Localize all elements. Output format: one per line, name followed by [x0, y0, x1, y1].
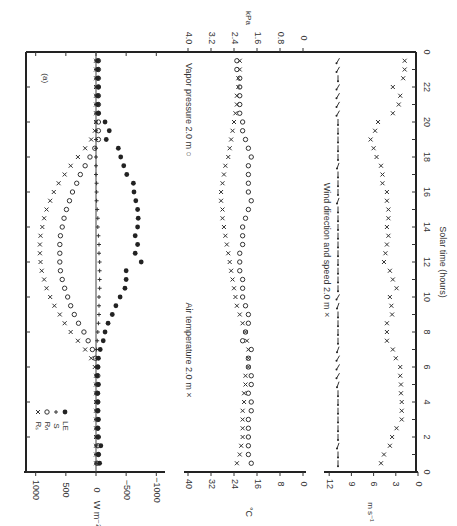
- wind-arrow-head: [336, 369, 338, 371]
- energy-point-le: [136, 216, 141, 221]
- energy-point-le: [124, 277, 129, 282]
- energy-point-s: [98, 286, 102, 290]
- wind-speed-point: [373, 129, 377, 133]
- energy-point-rn: [67, 199, 71, 203]
- temp-point: [231, 278, 235, 282]
- energy-point-rs: [52, 190, 56, 194]
- vp-point: [240, 129, 244, 133]
- energy-point-rs: [39, 260, 43, 264]
- temp-point: [229, 138, 233, 142]
- energy-point-rs: [38, 243, 42, 247]
- energy-point-le: [97, 461, 102, 466]
- energy-point-rs: [40, 225, 44, 229]
- energy-point-le: [132, 190, 137, 195]
- wind-speed-point: [388, 444, 392, 448]
- time-tick-label: 6: [422, 364, 432, 369]
- wind-arrow-head: [337, 325, 339, 327]
- wind-speed-point: [403, 59, 407, 63]
- energy-point-le: [96, 382, 101, 387]
- wind-speed-point: [385, 330, 389, 334]
- vp-point: [240, 277, 244, 281]
- energy-point-s: [95, 190, 99, 194]
- vp-point: [249, 199, 253, 203]
- energy-point-le: [95, 426, 100, 431]
- vp-point: [249, 155, 253, 159]
- chart-svg: 02468101214161820220Solar time (hours)10…: [0, 0, 457, 526]
- energy-tick-label: −1000: [152, 477, 162, 502]
- temp-tick-label: 40: [184, 479, 194, 489]
- temp-point: [242, 391, 246, 395]
- energy-point-le: [123, 286, 128, 291]
- vp-point: [240, 242, 244, 246]
- time-tick-label: 8: [422, 329, 432, 334]
- wind-arrow-head: [337, 80, 339, 82]
- energy-point-s: [94, 164, 98, 168]
- time-tick-label: 0: [422, 469, 432, 474]
- energy-point-s: [97, 313, 101, 317]
- energy-point-s: [98, 269, 102, 273]
- vp-point: [246, 444, 250, 448]
- vp-point: [235, 59, 239, 63]
- energy-point-rn: [86, 339, 90, 343]
- energy-point-le: [118, 155, 123, 160]
- wind-speed-point: [398, 374, 402, 378]
- wind-arrow-head: [337, 404, 339, 406]
- temp-point: [232, 286, 236, 290]
- energy-point-le: [95, 435, 100, 440]
- wind-speed-point: [401, 76, 405, 80]
- energy-point-rs: [42, 216, 46, 220]
- energy-point-le: [135, 225, 140, 230]
- energy-point-rn: [62, 286, 66, 290]
- energy-point-rs: [58, 313, 62, 317]
- wind-arrow-head: [337, 194, 339, 196]
- time-tick-label: 4: [422, 399, 432, 404]
- energy-axis-title: W m⁻²: [92, 501, 102, 526]
- energy-point-rn: [75, 181, 79, 185]
- legend-marker: [63, 410, 68, 415]
- wind-speed-point: [391, 85, 395, 89]
- wind-arrow-head: [337, 413, 339, 415]
- energy-point-le: [95, 408, 100, 413]
- energy-point-le: [107, 128, 112, 133]
- temp-point: [233, 295, 237, 299]
- wind-arrow-head: [336, 106, 338, 108]
- energy-point-rn: [68, 304, 72, 308]
- wind-arrow-head: [337, 457, 339, 459]
- wind-speed-point: [380, 181, 384, 185]
- temp-point: [241, 409, 245, 413]
- vp-point: [240, 120, 244, 124]
- wind-speed-point: [385, 321, 389, 325]
- energy-point-rn: [58, 242, 62, 246]
- temp-point: [225, 243, 229, 247]
- temp-point: [221, 216, 225, 220]
- energy-point-le: [95, 365, 100, 370]
- time-tick-label: 20: [422, 117, 432, 127]
- wind-arrow-head: [336, 203, 338, 205]
- vp-point: [249, 400, 253, 404]
- vp-point: [240, 225, 244, 229]
- vp-point: [249, 409, 253, 413]
- wind-arrow-head: [336, 168, 338, 170]
- energy-point-rs: [69, 164, 73, 168]
- energy-point-rs: [57, 181, 61, 185]
- vp-tick-label: 0.8: [276, 32, 286, 45]
- wind-speed-point: [386, 216, 390, 220]
- energy-point-s: [96, 321, 100, 325]
- time-tick-label: 16: [422, 187, 432, 197]
- energy-point-le: [135, 242, 140, 247]
- wind-speed-point: [399, 383, 403, 387]
- wind-arrow-head: [337, 255, 339, 257]
- temp-tick-label: 0: [299, 481, 309, 486]
- vp-point: [249, 461, 253, 465]
- wind-speed-point: [372, 146, 376, 150]
- vp-point: [240, 286, 244, 290]
- wind-arrow-head: [337, 334, 339, 336]
- temp-point: [222, 225, 226, 229]
- vp-tick-label: 0: [299, 35, 309, 40]
- temp-point: [222, 173, 226, 177]
- energy-point-rn: [58, 234, 62, 238]
- wind-arrow-head: [336, 299, 338, 301]
- wind-speed-point: [376, 120, 380, 124]
- wind-tick-label: 6: [369, 481, 379, 486]
- vp-point: [238, 111, 242, 115]
